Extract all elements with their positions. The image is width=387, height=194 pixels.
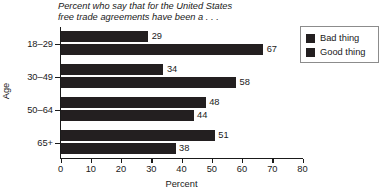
x-axis-tick [151,159,152,164]
bar-value-label: 48 [209,97,219,108]
bar-value-label: 67 [267,44,277,55]
y-axis-tick-label: 18–29 [27,39,53,49]
bar-value-label: 51 [218,130,228,141]
x-axis-tick [61,159,62,164]
bar [61,77,237,88]
bar [61,44,264,55]
bar-value-label: 34 [167,64,177,75]
x-axis-tick-label: 80 [288,164,318,174]
chart-legend: Bad thing Good thing [300,26,379,63]
x-axis-tick-label: 0 [46,164,76,174]
x-axis-tick-label: 30 [136,164,166,174]
chart-title: Percent who say that for the United Stat… [58,1,298,23]
bar-chart: Percent who say that for the United Stat… [0,0,387,194]
y-axis-tick-label: 30–49 [27,72,53,82]
bar-value-label: 44 [197,110,207,121]
legend-swatch-icon [306,48,315,57]
x-axis-tick [212,159,213,164]
x-axis-tick [303,159,304,164]
x-axis-tick-label: 60 [227,164,257,174]
x-axis-tick [272,159,273,164]
x-axis-tick-label: 20 [106,164,136,174]
bar-value-label: 38 [179,143,189,154]
x-axis-tick [121,159,122,164]
bar [61,130,215,141]
x-axis-tick-label: 50 [197,164,227,174]
y-axis-tick-label: 50–64 [27,105,53,115]
x-axis-tick [242,159,243,164]
legend-label: Bad thing [320,33,359,43]
x-axis-tick [91,159,92,164]
x-axis-tick-label: 70 [257,164,287,174]
bar [61,64,164,75]
bar [61,31,149,42]
bar-value-label: 58 [240,77,250,88]
x-axis-tick [182,159,183,164]
y-axis-title: Age [1,69,11,113]
bar [61,97,206,108]
legend-label: Good thing [320,47,366,57]
bar [61,110,194,121]
x-axis-tick-label: 10 [76,164,106,174]
legend-item-good-thing[interactable]: Good thing [306,45,374,59]
legend-swatch-icon [306,34,315,43]
y-axis-tick-label: 65+ [37,138,53,148]
bar [61,143,176,154]
legend-item-bad-thing[interactable]: Bad thing [306,31,374,45]
x-axis-tick-label: 40 [167,164,197,174]
bar-value-label: 29 [152,31,162,42]
x-axis-title: Percent [60,179,303,189]
